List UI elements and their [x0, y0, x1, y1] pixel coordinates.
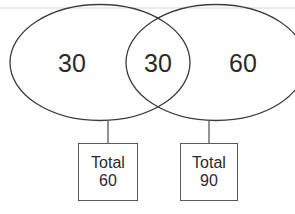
venn-diagram-graphic	[0, 0, 295, 214]
right-total-word: Total	[192, 154, 226, 172]
venn-diagram-canvas: 30 30 60 Total 60 Total 90	[0, 0, 295, 214]
right-total-box: Total 90	[180, 143, 238, 201]
left-total-box: Total 60	[78, 143, 138, 201]
overlap-count-label: 30	[144, 51, 172, 76]
left-total-value: 60	[99, 172, 117, 190]
left-only-count-label: 30	[58, 51, 86, 76]
right-only-count-label: 60	[229, 51, 257, 76]
right-total-value: 90	[200, 172, 218, 190]
left-total-word: Total	[91, 154, 125, 172]
